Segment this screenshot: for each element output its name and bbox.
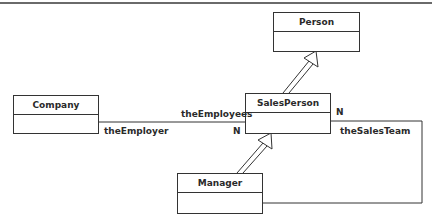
class-person[interactable]: Person [273,12,360,52]
class-name: Manager [178,174,262,193]
class-company[interactable]: Company [13,95,99,134]
multiplicity-sales-team: N [336,107,344,117]
multiplicity-employees: N [233,126,241,136]
role-the-employer: theEmployer [104,126,168,136]
class-name: Company [14,96,98,115]
role-the-sales-team: theSalesTeam [340,126,410,136]
class-manager[interactable]: Manager [177,173,263,214]
class-name: Person [274,13,359,32]
generalization-arrow-manager-salesperson [237,133,272,173]
role-the-employees: theEmployees [181,109,252,119]
class-salesperson[interactable]: SalesPerson [245,93,331,134]
generalization-arrow-salesperson-person [283,51,318,93]
class-name: SalesPerson [246,94,330,113]
